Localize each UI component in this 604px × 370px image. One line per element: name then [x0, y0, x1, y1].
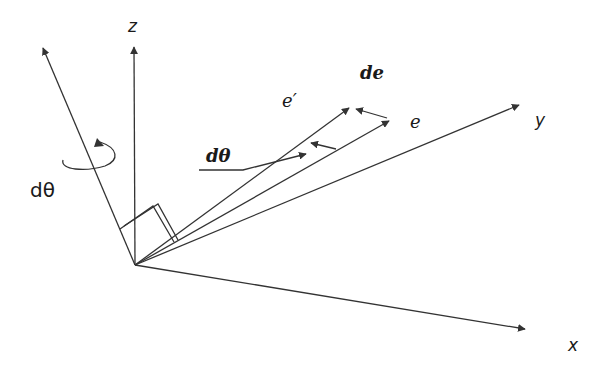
vector-e-prime [135, 108, 349, 265]
vector-e-label: e [410, 113, 421, 131]
z-axis-label: z [128, 18, 137, 35]
vector-e [135, 121, 389, 265]
x-axis [135, 265, 525, 329]
diagram-graphics [0, 0, 604, 370]
vector-e-prime-label: e′ [282, 92, 297, 110]
rotation-angle-label: dθ [30, 180, 55, 200]
rotation-axis [43, 48, 135, 265]
vector-de [356, 109, 387, 118]
rotation-diagram: z y x dθ e e′ de dθ [0, 0, 604, 370]
y-axis [135, 105, 519, 265]
angle-arc [311, 143, 336, 149]
angle-annotation-label: dθ [206, 147, 231, 165]
vector-de-label: de [360, 64, 384, 82]
y-axis-label: y [535, 112, 545, 129]
z-axis [134, 47, 135, 265]
x-axis-label: x [568, 337, 578, 354]
